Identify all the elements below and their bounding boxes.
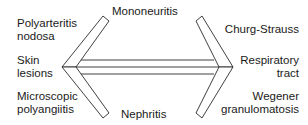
label-churg-strauss: Churg-Strauss bbox=[225, 23, 299, 36]
label-respiratory-tract: Respiratory tract bbox=[240, 54, 299, 80]
label-line: Respiratory bbox=[240, 54, 299, 67]
label-line: Polyarteritis bbox=[17, 17, 77, 30]
label-line: granulomatosis bbox=[221, 103, 299, 116]
label-microscopic-polyangiitis: Microscopic polyangiitis bbox=[17, 90, 78, 116]
label-line: nodosa bbox=[17, 30, 77, 43]
label-wegener-granulomatosis: Wegener granulomatosis bbox=[221, 90, 299, 116]
label-skin-lesions: Skin lesions bbox=[17, 54, 53, 80]
label-line: Microscopic bbox=[17, 90, 78, 103]
label-line: tract bbox=[240, 67, 299, 80]
label-mononeuritis: Mononeuritis bbox=[112, 5, 178, 18]
label-nephritis: Nephritis bbox=[121, 108, 166, 121]
label-line: lesions bbox=[17, 67, 53, 80]
label-line: Churg-Strauss bbox=[225, 23, 299, 36]
label-line: Wegener bbox=[221, 90, 299, 103]
label-line: polyangiitis bbox=[17, 103, 78, 116]
label-line: Nephritis bbox=[121, 108, 166, 121]
label-line: Skin bbox=[17, 54, 53, 67]
label-line: Mononeuritis bbox=[112, 5, 178, 18]
label-polyarteritis-nodosa: Polyarteritis nodosa bbox=[17, 17, 77, 43]
